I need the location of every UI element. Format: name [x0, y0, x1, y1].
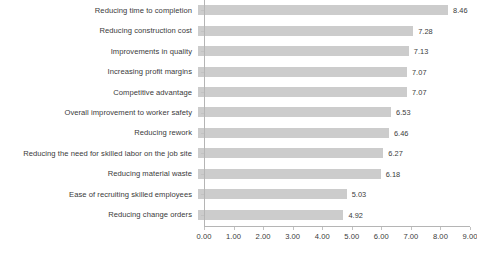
bar-row: Reducing the need for skilled labor on t…: [0, 143, 477, 163]
bar-row: Reducing change orders4.92: [0, 205, 477, 225]
bar: [198, 189, 347, 199]
bar-value-label: 7.28: [418, 26, 433, 35]
bar-row: Increasing profit margins7.07: [0, 61, 477, 81]
x-axis-tick: [204, 227, 205, 230]
bar: [198, 67, 407, 77]
bar: [198, 148, 383, 158]
bar-track: 6.53: [198, 102, 477, 122]
bar-track: 6.46: [198, 123, 477, 143]
y-axis-tick: [201, 215, 204, 216]
y-axis-tick: [201, 31, 204, 32]
bar: [198, 5, 448, 15]
bar-track: 4.92: [198, 205, 477, 225]
y-axis-line: [204, 0, 205, 226]
bar-row: Reducing rework6.46: [0, 123, 477, 143]
x-axis-tick-label: 3.00: [278, 232, 308, 241]
x-axis-tick-label: 8.00: [425, 232, 455, 241]
bar: [198, 107, 391, 117]
bar-value-label: 6.27: [388, 149, 403, 158]
bar-row: Reducing construction cost7.28: [0, 20, 477, 40]
y-axis-tick: [201, 10, 204, 11]
category-label: Increasing profit margins: [0, 67, 198, 76]
y-axis-tick: [201, 133, 204, 134]
bar-value-label: 6.46: [394, 128, 409, 137]
y-axis-tick: [201, 194, 204, 195]
category-label: Reducing construction cost: [0, 26, 198, 35]
category-label: Improvements in quality: [0, 47, 198, 56]
category-label: Reducing change orders: [0, 210, 198, 219]
y-axis-tick: [201, 174, 204, 175]
bar-track: 6.27: [198, 143, 477, 163]
bar-value-label: 7.07: [412, 88, 427, 97]
category-label: Overall improvement to worker safety: [0, 108, 198, 117]
x-axis-tick: [440, 227, 441, 230]
category-label: Competitive advantage: [0, 88, 198, 97]
bar: [198, 87, 407, 97]
bar: [198, 26, 413, 36]
bar-row: Improvements in quality7.13: [0, 41, 477, 61]
bar-track: 7.28: [198, 20, 477, 40]
bar: [198, 46, 409, 56]
y-axis-tick: [201, 92, 204, 93]
plot-area: Reducing time to completion8.46Reducing …: [0, 0, 477, 225]
bar-track: 7.07: [198, 82, 477, 102]
bar-value-label: 7.07: [412, 67, 427, 76]
bar-row: Overall improvement to worker safety6.53: [0, 102, 477, 122]
bar-value-label: 7.13: [414, 47, 429, 56]
bar: [198, 169, 381, 179]
x-axis-tick-label: 0.00: [189, 232, 219, 241]
y-axis-tick: [201, 72, 204, 73]
bar-value-label: 5.03: [352, 190, 367, 199]
bar-chart: Reducing time to completion8.46Reducing …: [0, 0, 477, 253]
x-axis-tick-label: 1.00: [219, 232, 249, 241]
x-axis-tick: [293, 227, 294, 230]
x-axis-tick-label: 7.00: [396, 232, 426, 241]
x-axis-tick: [411, 227, 412, 230]
x-axis-tick-label: 2.00: [248, 232, 278, 241]
x-axis-tick: [381, 227, 382, 230]
y-axis-tick: [201, 113, 204, 114]
x-axis-tick: [352, 227, 353, 230]
bar-value-label: 6.18: [386, 169, 401, 178]
y-axis-tick: [201, 153, 204, 154]
x-axis-tick: [470, 227, 471, 230]
bar-value-label: 6.53: [396, 108, 411, 117]
x-axis-tick: [263, 227, 264, 230]
bar: [198, 128, 389, 138]
bar-value-label: 4.92: [348, 210, 363, 219]
bar-track: 6.18: [198, 164, 477, 184]
x-axis-tick: [322, 227, 323, 230]
bar-row: Reducing material waste6.18: [0, 164, 477, 184]
bar-value-label: 8.46: [453, 6, 468, 15]
bar-row: Reducing time to completion8.46: [0, 0, 477, 20]
x-axis-tick-label: 6.00: [366, 232, 396, 241]
category-label: Reducing rework: [0, 128, 198, 137]
category-label: Reducing material waste: [0, 169, 198, 178]
bar-track: 8.46: [198, 0, 477, 20]
bar-row: Ease of recruiting skilled employees5.03: [0, 184, 477, 204]
bar: [198, 210, 343, 220]
category-label: Ease of recruiting skilled employees: [0, 190, 198, 199]
x-axis-line: [204, 226, 470, 227]
category-label: Reducing the need for skilled labor on t…: [0, 149, 198, 158]
bar-track: 7.13: [198, 41, 477, 61]
bar-track: 7.07: [198, 61, 477, 81]
bar-row: Competitive advantage7.07: [0, 82, 477, 102]
category-label: Reducing time to completion: [0, 6, 198, 15]
bar-track: 5.03: [198, 184, 477, 204]
x-axis-tick-label: 5.00: [337, 232, 367, 241]
x-axis-tick-label: 9.00: [455, 232, 477, 241]
x-axis-tick-label: 4.00: [307, 232, 337, 241]
y-axis-tick: [201, 51, 204, 52]
x-axis-tick: [234, 227, 235, 230]
